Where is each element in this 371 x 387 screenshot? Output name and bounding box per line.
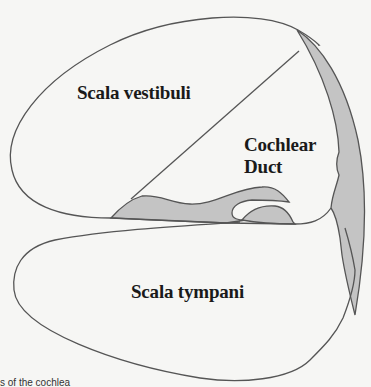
scala-tympani-label: Scala tympani: [131, 281, 244, 302]
cochlear-duct-label-line2: Duct: [244, 156, 282, 177]
cochlea-cross-section-diagram: [0, 0, 371, 387]
cochlear-duct-label-line1: Cochlear: [244, 134, 316, 155]
figure-caption-fragment: s of the cochlea: [0, 377, 70, 387]
scala-vestibuli-label: Scala vestibuli: [77, 82, 191, 103]
organ-of-corti: [242, 206, 295, 224]
